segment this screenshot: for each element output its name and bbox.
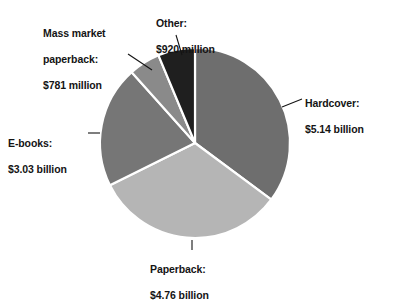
slice-label-other: Other: $920 million xyxy=(156,4,251,69)
slice-label-mass-market-paperback: Mass market paperback: $781 million xyxy=(43,14,153,105)
slice-label-ebooks-name: E-books: xyxy=(8,137,100,150)
slice-label-paperback: Paperback: $4.76 billion xyxy=(150,250,260,304)
slice-label-paperback-value: $4.76 billion xyxy=(150,289,260,302)
slice-label-hardcover: Hardcover: $5.14 billion xyxy=(305,84,393,149)
slice-label-mass-market-value: $781 million xyxy=(43,79,153,92)
slice-label-hardcover-value: $5.14 billion xyxy=(305,123,393,136)
slice-label-ebooks: E-books: $3.03 billion xyxy=(8,124,100,189)
slice-label-other-name: Other: xyxy=(156,17,251,30)
slice-label-mass-market-name-2: paperback: xyxy=(43,53,153,66)
leader-line-hardcover xyxy=(282,99,302,107)
slice-label-paperback-name: Paperback: xyxy=(150,263,260,276)
slice-label-mass-market-name-1: Mass market xyxy=(43,27,153,40)
slice-label-ebooks-value: $3.03 billion xyxy=(8,163,100,176)
slice-label-other-value: $920 million xyxy=(156,43,251,56)
slice-label-hardcover-name: Hardcover: xyxy=(305,97,393,110)
